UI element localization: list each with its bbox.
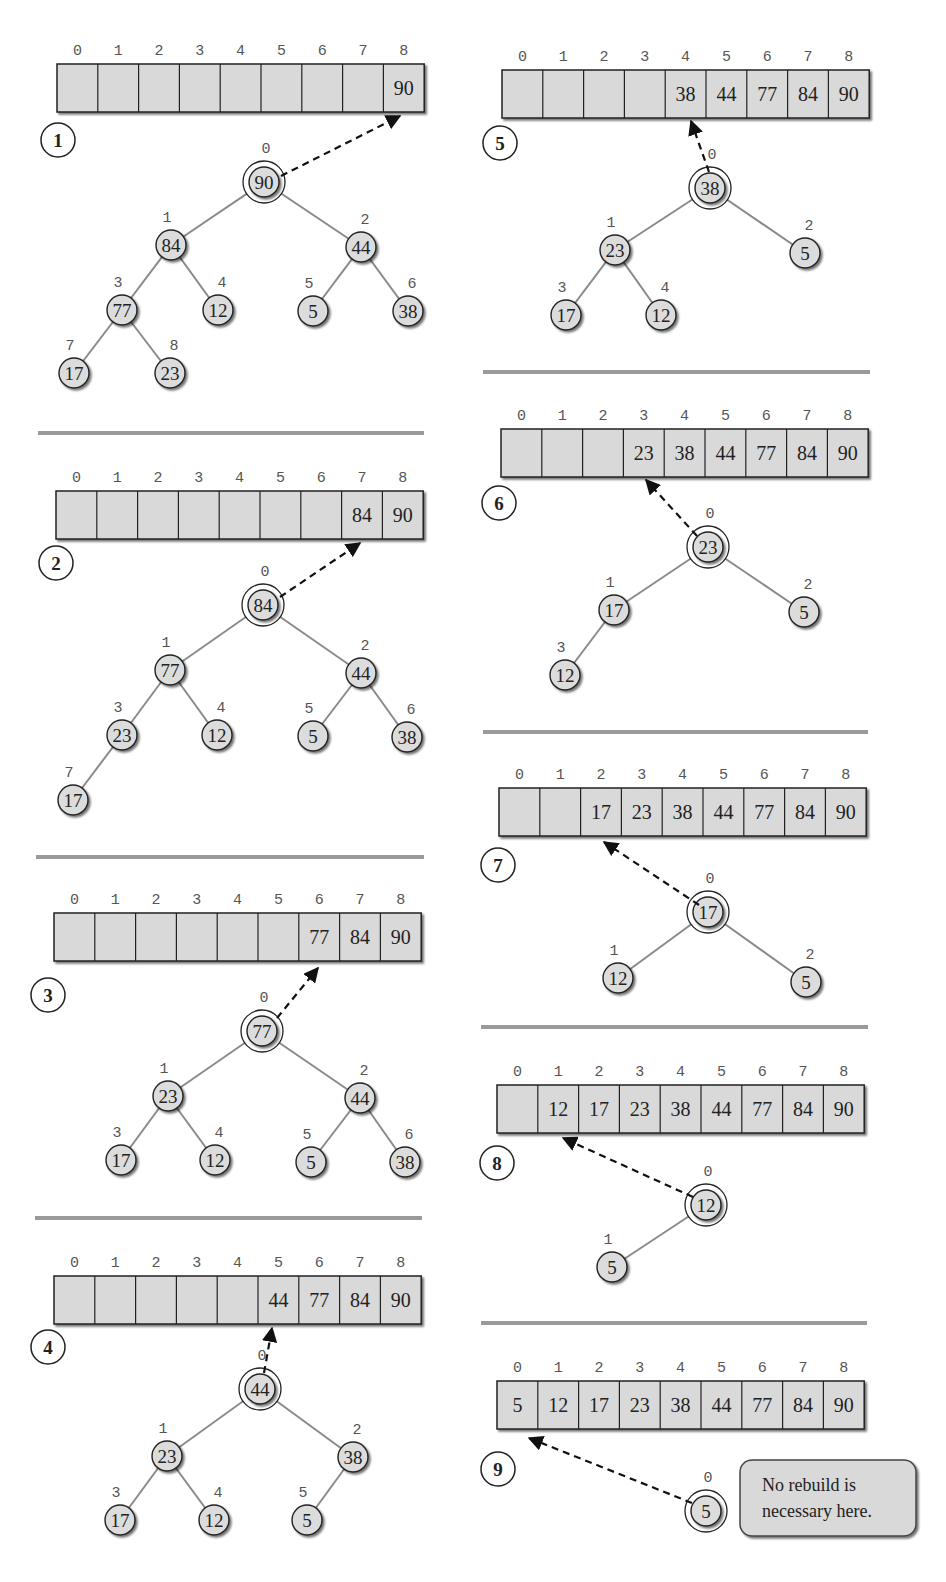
array-cell-value: 84 <box>793 1098 813 1120</box>
array-index: 0 <box>70 892 79 909</box>
step-number: 3 <box>43 985 53 1006</box>
array-index: 6 <box>317 470 326 487</box>
node-value: 5 <box>799 602 809 623</box>
node-value: 17 <box>65 363 84 384</box>
array-index: 0 <box>517 408 526 425</box>
array-cell-value: 5 <box>512 1394 522 1416</box>
array: 012345677784890 <box>54 892 421 961</box>
node-index: 2 <box>804 218 813 235</box>
node-index: 0 <box>260 564 269 581</box>
node-index: 1 <box>158 1421 167 1438</box>
panel-step-8: 0112217323438544677784890812051 <box>480 1064 864 1282</box>
node-value: 5 <box>701 1501 711 1522</box>
array-index: 6 <box>315 1255 324 1272</box>
node-index: 3 <box>112 1125 121 1142</box>
array: 0112217323438544677784890 <box>497 1064 864 1133</box>
array-cell-value: 44 <box>268 1289 288 1311</box>
panel-step-6: 012323438544677784890623017152123 <box>482 408 868 690</box>
node-index: 6 <box>407 276 416 293</box>
array-index: 5 <box>277 43 286 60</box>
tree-nodes: 23017152123 <box>550 506 819 690</box>
array-cell-value: 44 <box>716 83 736 105</box>
tree-node: 55 <box>298 276 328 326</box>
array-cell-value: 77 <box>752 1098 772 1120</box>
tree-nodes: 17012152 <box>603 871 821 997</box>
array-index: 3 <box>640 49 649 66</box>
move-arrow <box>529 1438 692 1503</box>
array-cell-value: 77 <box>754 801 774 823</box>
array-cell-value: 90 <box>391 926 411 948</box>
array-cell-value: 38 <box>671 1098 691 1120</box>
node-index: 2 <box>352 1422 361 1439</box>
tree-node: 231 <box>152 1421 182 1471</box>
note-callout: No rebuild is necessary here. <box>740 1460 916 1536</box>
array-cell-value: 84 <box>793 1394 813 1416</box>
array-cell-value: 23 <box>634 442 654 464</box>
array-cell-value: 84 <box>350 1289 370 1311</box>
array-index: 1 <box>558 408 567 425</box>
array-index: 7 <box>358 43 367 60</box>
step-number: 5 <box>495 133 505 154</box>
node-value: 44 <box>352 663 372 684</box>
node-index: 0 <box>257 1348 266 1365</box>
array-cell-value: 23 <box>630 1394 650 1416</box>
move-arrow <box>563 1138 693 1197</box>
node-index: 0 <box>703 1470 712 1487</box>
node-index: 1 <box>606 215 615 232</box>
array-cell-value: 44 <box>713 801 733 823</box>
array-index: 0 <box>70 1255 79 1272</box>
heap-sort-figure: 0123456789019008414427731245538617723801… <box>0 0 946 1582</box>
array-index: 2 <box>151 892 160 909</box>
node-value: 12 <box>209 300 228 321</box>
node-value: 44 <box>251 1379 271 1400</box>
array-index: 7 <box>802 408 811 425</box>
array-index: 5 <box>276 470 285 487</box>
panels: 0123456789019008414427731245538617723801… <box>31 43 869 1535</box>
node-value: 12 <box>556 665 575 686</box>
node-index: 1 <box>609 943 618 960</box>
array-index: 8 <box>843 408 852 425</box>
array-index: 7 <box>355 892 364 909</box>
move-arrow <box>604 842 699 905</box>
tree-node: 124 <box>203 275 233 325</box>
array-index: 3 <box>194 470 203 487</box>
array: 0123456784890 <box>56 470 423 539</box>
node-index: 4 <box>217 275 226 292</box>
array-index: 4 <box>680 408 689 425</box>
node-index: 0 <box>703 1164 712 1181</box>
step-number-badge: 6 <box>482 486 516 520</box>
node-index: 1 <box>605 575 614 592</box>
array-cell-value: 77 <box>752 1394 772 1416</box>
tree-node: 231 <box>153 1061 183 1111</box>
array-cell-value: 17 <box>589 1394 609 1416</box>
node-index: 1 <box>161 635 170 652</box>
panel-step-3: 012345677784890377023144217312455386 <box>31 892 421 1177</box>
array-cell-value: 77 <box>757 83 777 105</box>
step-number: 6 <box>494 493 504 514</box>
node-index: 3 <box>556 640 565 657</box>
tree-nodes: 90084144277312455386177238 <box>59 141 423 388</box>
array-index: 4 <box>676 1360 685 1377</box>
array: 01234567890 <box>57 43 424 112</box>
step-number-badge: 8 <box>480 1146 514 1180</box>
tree-node: 171 <box>599 575 629 625</box>
tree-node: 900 <box>243 141 285 203</box>
array-index: 2 <box>154 43 163 60</box>
array-cell-value: 77 <box>309 926 329 948</box>
array-cell-value: 44 <box>715 442 735 464</box>
array-index: 2 <box>151 1255 160 1272</box>
tree-node: 386 <box>392 702 422 752</box>
array-index: 8 <box>396 1255 405 1272</box>
step-number: 2 <box>51 553 61 574</box>
array-index: 8 <box>839 1064 848 1081</box>
panel-step-5: 0123438544677784890538023152173124 <box>483 49 869 330</box>
node-index: 0 <box>707 147 716 164</box>
step-number-badge: 3 <box>31 978 65 1012</box>
tree-node: 55 <box>298 701 328 751</box>
tree-node: 386 <box>390 1127 420 1177</box>
tree-node: 177 <box>58 765 88 815</box>
tree-node: 51 <box>597 1232 627 1282</box>
node-value: 77 <box>161 660 180 681</box>
tree-node: 442 <box>346 212 376 262</box>
step-number-badge: 5 <box>483 126 517 160</box>
